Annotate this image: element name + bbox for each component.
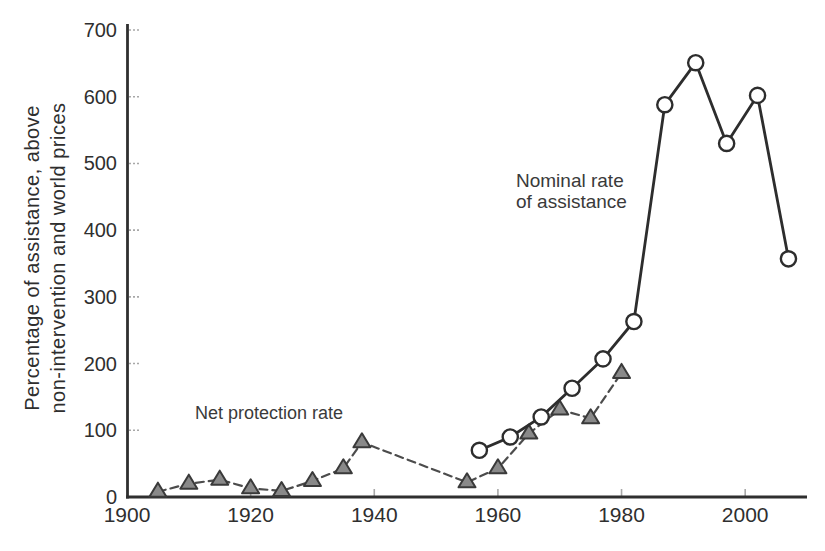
y-tick-label: 400 xyxy=(84,219,117,241)
data-point-circle-marker xyxy=(781,251,796,266)
net-protection-rate-line xyxy=(158,373,622,492)
y-tick-label: 500 xyxy=(84,152,117,174)
data-point-triangle-marker xyxy=(180,475,197,489)
data-point-circle-marker xyxy=(534,409,549,424)
data-point-circle-marker xyxy=(595,351,610,366)
y-tick-label: 300 xyxy=(84,286,117,308)
series-label-nominal-line1: Nominal rate xyxy=(516,170,627,191)
data-point-circle-marker xyxy=(750,88,765,103)
data-point-triangle-marker xyxy=(211,471,228,485)
x-tick-label: 2000 xyxy=(722,503,769,526)
y-tick-label: 700 xyxy=(84,19,117,41)
data-point-circle-marker xyxy=(688,55,703,70)
x-tick-label: 1960 xyxy=(475,503,522,526)
x-tick-label: 1980 xyxy=(598,503,645,526)
chart-figure: 0100200300400500600700190019201940196019… xyxy=(0,0,825,551)
series-label-net-protection-rate: Net protection rate xyxy=(195,402,343,424)
y-tick-label: 100 xyxy=(84,419,117,441)
y-axis-title: Percentage of assistance, above non-inte… xyxy=(19,102,71,413)
y-axis-title-line1: Percentage of assistance, above xyxy=(19,102,45,413)
data-point-circle-marker xyxy=(503,429,518,444)
data-point-triangle-marker xyxy=(551,401,568,415)
data-point-circle-marker xyxy=(472,443,487,458)
data-point-circle-marker xyxy=(657,97,672,112)
data-point-triangle-marker xyxy=(613,364,630,378)
y-tick-label: 600 xyxy=(84,86,117,108)
y-tick-label: 200 xyxy=(84,353,117,375)
data-point-circle-marker xyxy=(719,136,734,151)
x-tick-label: 1900 xyxy=(104,503,151,526)
x-tick-label: 1920 xyxy=(227,503,274,526)
series-label-nominal-rate-of-assistance: Nominal rate of assistance xyxy=(516,170,627,212)
data-point-triangle-marker xyxy=(353,433,370,447)
nominal-rate-of-assistance-line xyxy=(479,63,788,451)
data-point-circle-marker xyxy=(626,314,641,329)
data-point-triangle-marker xyxy=(242,479,259,493)
data-point-circle-marker xyxy=(564,381,579,396)
y-axis-title-line2: non-intervention and world prices xyxy=(45,102,71,413)
chart-canvas: 0100200300400500600700190019201940196019… xyxy=(0,0,825,551)
x-tick-label: 1940 xyxy=(351,503,398,526)
data-point-triangle-marker xyxy=(520,425,537,439)
series-label-nominal-line2: of assistance xyxy=(516,191,627,212)
